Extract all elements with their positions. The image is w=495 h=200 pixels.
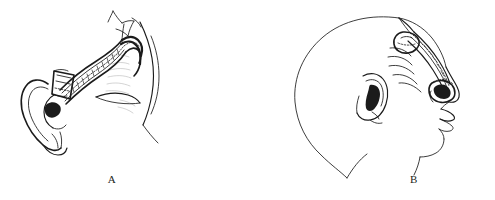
- face-profile: [121, 22, 159, 143]
- orbit-inset: [429, 80, 455, 103]
- auricle: [357, 74, 388, 124]
- panel-a-drawing: [0, 0, 248, 200]
- auricle: [21, 80, 67, 155]
- temporal-suture-arcs: [388, 48, 421, 92]
- panel-a-caption: A: [104, 173, 120, 185]
- panel-a: [0, 0, 248, 200]
- flap-pedicle: [60, 37, 142, 104]
- figure-container: A B: [0, 0, 495, 200]
- panel-b-drawing: [247, 0, 495, 200]
- cheek-shading: [106, 55, 135, 113]
- panel-b: [247, 0, 495, 200]
- panel-b-caption: B: [406, 173, 422, 185]
- defect-site: [96, 93, 140, 103]
